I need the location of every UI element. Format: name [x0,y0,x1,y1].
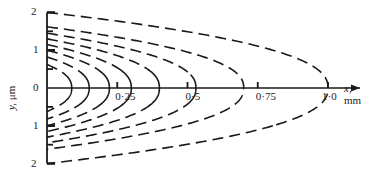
y-axis-tick-label-2-top: 2 [31,6,37,17]
contour-1-dashed-lower [47,98,68,111]
y-axis-tick-label-2-bottom: 2 [31,158,37,169]
x-axis-tick-label-025: 0·25 [115,91,135,102]
y-axis-tick-label-0: 0 [33,82,39,93]
contour-4-dashed-upper [47,45,122,71]
x-axis-title: x, mm [344,83,361,106]
x-axis-title-unit: mm [344,94,361,106]
y-axis-title: y, μm [6,86,17,110]
contour-5-dashed-upper [47,39,150,71]
contour-3-dashed-lower [47,104,102,126]
contour-4-dashed-lower [47,105,122,132]
x-axis-title-variable: x, [344,82,352,94]
contour-8-dashed-upper [47,12,328,125]
figure-container: 2 1 0 1 2 0·25 0·5 0·75 1·0 x, mm y, μm [0,0,379,174]
contour-1-dashed-upper [47,65,68,78]
x-axis-tick-label-10: 1·0 [322,91,337,102]
contour-7-dashed-upper [47,27,244,96]
plot-canvas [0,0,379,174]
y-axis-title-unit: μm [5,86,17,100]
y-axis-tick-label-1-bottom: 1 [33,120,39,131]
x-axis-tick-label-075: 0·75 [256,91,276,102]
x-axis-tick-label-05: 0·5 [186,91,201,102]
y-axis-title-variable: y, [5,103,17,110]
contour-2-dashed-upper [47,57,83,74]
y-axis-tick-label-1-top: 1 [33,44,39,55]
